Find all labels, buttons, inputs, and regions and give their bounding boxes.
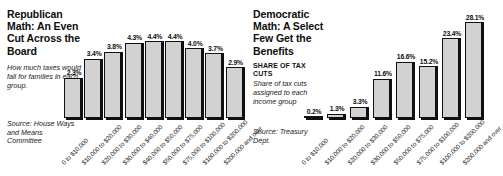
bar <box>205 53 222 118</box>
bar <box>350 107 367 118</box>
bar-group: 28.1% <box>465 22 484 118</box>
category-tick: $100,000 to $200,000 <box>206 165 207 166</box>
bar <box>185 48 202 118</box>
category-tick: $10,000 to $20,000 <box>85 165 86 166</box>
category-tick: $50,000 to $75,000 <box>397 165 398 166</box>
bar <box>396 62 413 118</box>
bar <box>373 79 390 118</box>
chart-panel-republican: Republican Math: An Even Cut Across the … <box>0 0 246 176</box>
category-tick: 0 to $10,000 <box>305 165 306 166</box>
bar-value-label: 1.3% <box>324 105 350 112</box>
bar <box>327 114 344 118</box>
bar-value-label: 3.4% <box>81 50 107 57</box>
category-tick: 0 to $10,000 <box>65 165 66 166</box>
chart-panel-democratic: Democratic Math: A Select Few Get the Be… <box>246 0 492 176</box>
bar-group: 0.2% <box>304 116 323 118</box>
bar-group: 15.2% <box>419 66 438 118</box>
bar-group: 3.4% <box>84 59 103 119</box>
bar-value-label: 4.4% <box>162 33 188 40</box>
plot-area-right: 0.2%0 to $10,0001.3%$10,000 to $20,0003.… <box>246 0 492 176</box>
bar-group: 11.6% <box>373 79 392 118</box>
bar-group: 3.8% <box>104 52 123 119</box>
bar <box>125 43 142 118</box>
bar <box>64 78 81 118</box>
bar-value-label: 11.6% <box>370 70 396 77</box>
bar-group: 4.4% <box>145 41 164 118</box>
category-tick: $20,000 to $30,000 <box>105 165 106 166</box>
bar <box>84 59 101 119</box>
category-tick: $75,000 to $100,000 <box>186 165 187 166</box>
bar-value-label: 2.3% <box>61 69 87 76</box>
category-tick: $30,000 to $50,000 <box>374 165 375 166</box>
category-tick: $75,000 to $100,000 <box>420 165 421 166</box>
bar <box>145 41 162 118</box>
category-label: $75,000 to $100,000 <box>415 121 460 166</box>
category-tick: $30,000 to $40,000 <box>126 165 127 166</box>
bar-value-label: 3.7% <box>202 45 228 52</box>
category-tick: $100,000 to $200,000 <box>443 165 444 166</box>
category-label: $10,000 to $20,000 <box>323 123 366 166</box>
bar-value-label: 2.9% <box>223 59 249 66</box>
bar <box>226 67 243 118</box>
bar-value-label: 15.2% <box>416 58 442 65</box>
category-tick: $200,000 and over <box>466 165 467 166</box>
bar-group: 4.0% <box>185 48 204 118</box>
bar-group: 1.3% <box>327 114 346 118</box>
bar-group: 23.4% <box>442 38 461 118</box>
category-tick: $40,000 to $50,000 <box>146 165 147 166</box>
plot-area-left: 2.3%0 to $10,0003.4%$10,000 to $20,0003.… <box>0 0 246 176</box>
bar <box>465 22 482 118</box>
bar-group: 2.3% <box>64 78 83 118</box>
category-tick: $50,000 to $75,000 <box>166 165 167 166</box>
bar <box>442 38 459 118</box>
category-tick: $10,000 to $20,000 <box>328 165 329 166</box>
bar-group: 2.9% <box>226 67 245 118</box>
bar <box>165 41 182 118</box>
bar <box>104 52 121 119</box>
bar-group: 4.4% <box>165 41 184 118</box>
bar-group: 3.7% <box>205 53 224 118</box>
bar-group: 3.3% <box>350 107 369 118</box>
bar-value-label: 23.4% <box>439 30 465 37</box>
bar-value-label: 3.8% <box>101 43 127 50</box>
bar-value-label: 3.3% <box>347 98 373 105</box>
bar-group: 4.3% <box>125 43 144 118</box>
category-tick: $20,000 to $30,000 <box>351 165 352 166</box>
bar-value-label: 28.1% <box>462 14 488 21</box>
bar <box>419 66 436 118</box>
bar-group: 16.6% <box>396 62 415 118</box>
bar <box>304 116 321 118</box>
category-tick: $200,000 and over <box>227 165 228 166</box>
